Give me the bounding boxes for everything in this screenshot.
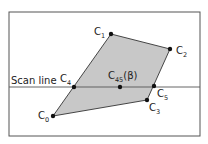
svg-text:C5: C5 (157, 88, 168, 102)
svg-text:C1: C1 (94, 26, 105, 40)
scan-line-diagram: Scan line C0 C1 C2 C3 C4 C45(β) C5 (0, 0, 208, 144)
svg-text:C4: C4 (60, 73, 71, 87)
point-c0: C0 (38, 110, 55, 124)
svg-text:C2: C2 (176, 45, 187, 59)
point-c3: C3 (145, 98, 160, 116)
svg-text:C0: C0 (38, 110, 49, 124)
scan-line-label: Scan line (11, 75, 57, 86)
point-c5: C5 (152, 84, 168, 102)
point-c2: C2 (168, 45, 187, 59)
svg-text:C3: C3 (149, 102, 160, 116)
